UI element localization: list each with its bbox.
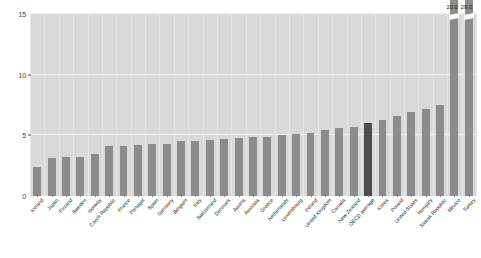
x-axis-tick-mark xyxy=(66,195,67,197)
bar xyxy=(105,146,113,196)
x-axis-tick-mark xyxy=(354,195,355,197)
gridline-vertical xyxy=(476,14,477,196)
x-axis-tick-mark xyxy=(152,195,153,197)
bar xyxy=(263,137,271,196)
x-axis-tick-mark xyxy=(167,195,168,197)
x-axis-category-label: Sweden xyxy=(71,197,88,215)
bar xyxy=(364,123,372,196)
y-axis: 051015 xyxy=(0,14,26,196)
plot-area xyxy=(30,14,476,196)
bar-chart: 051015 IcelandJapanFinlandSwedenNorwayCz… xyxy=(0,0,481,258)
x-axis-tick-mark xyxy=(267,195,268,197)
gridline-vertical xyxy=(217,14,218,196)
x-axis-tick-mark xyxy=(397,195,398,197)
x-axis-tick-mark xyxy=(109,195,110,197)
gridline-vertical xyxy=(59,14,60,196)
gridline-vertical xyxy=(347,14,348,196)
bar xyxy=(191,141,199,196)
y-axis-tick-mark xyxy=(28,135,31,136)
x-axis-tick-mark xyxy=(382,195,383,197)
x-axis-tick-mark xyxy=(138,195,139,197)
bar xyxy=(436,105,444,196)
bar xyxy=(206,140,214,196)
gridline-vertical xyxy=(390,14,391,196)
gridline-vertical xyxy=(246,14,247,196)
gridline-vertical xyxy=(275,14,276,196)
x-axis-category-label: Italy xyxy=(192,197,203,208)
bar xyxy=(163,144,171,196)
x-axis-category-labels: IcelandJapanFinlandSwedenNorwayCzech Rep… xyxy=(30,197,476,258)
x-axis-tick-mark xyxy=(52,195,53,197)
bar-value-label: 20.0 xyxy=(446,4,457,10)
bar xyxy=(350,127,358,196)
bar xyxy=(278,135,286,196)
bar xyxy=(335,128,343,196)
bar xyxy=(307,133,315,196)
x-axis-tick-mark xyxy=(282,195,283,197)
axis-break-mark xyxy=(449,13,459,20)
x-axis-tick-mark xyxy=(124,195,125,197)
gridline-vertical xyxy=(462,14,463,196)
bar xyxy=(48,158,56,196)
bar xyxy=(120,146,128,196)
x-axis-tick-mark xyxy=(210,195,211,197)
bar xyxy=(321,130,329,196)
bar xyxy=(91,154,99,196)
x-axis-category-label: Korea xyxy=(376,197,390,211)
gridline-vertical xyxy=(332,14,333,196)
x-axis-tick-mark xyxy=(95,195,96,197)
bar xyxy=(62,157,70,196)
x-axis-tick-mark xyxy=(469,195,470,197)
gridline-vertical xyxy=(30,14,31,196)
x-axis-category-label: Mexico xyxy=(446,197,461,213)
bar xyxy=(379,120,387,196)
y-axis-tick-label: 10 xyxy=(18,71,26,78)
bar xyxy=(235,138,243,196)
x-axis-tick-mark xyxy=(368,195,369,197)
bar xyxy=(76,157,84,196)
bar xyxy=(450,0,458,196)
x-axis-category-label: Iceland xyxy=(29,197,45,213)
gridline-horizontal xyxy=(30,13,476,14)
y-axis-tick-label: 15 xyxy=(18,11,26,18)
y-axis-tick-label: 0 xyxy=(22,193,26,200)
bar xyxy=(148,144,156,196)
gridline-vertical xyxy=(404,14,405,196)
x-axis-tick-mark xyxy=(80,195,81,197)
y-axis-tick-mark xyxy=(28,74,31,75)
gridline-vertical xyxy=(375,14,376,196)
gridline-vertical xyxy=(145,14,146,196)
gridline-vertical xyxy=(447,14,448,196)
bar xyxy=(249,137,257,196)
bar xyxy=(465,0,473,196)
gridline-vertical xyxy=(289,14,290,196)
bar xyxy=(407,112,415,196)
x-axis-tick-mark xyxy=(239,195,240,197)
bar xyxy=(33,167,41,196)
x-axis-category-label: Turkey xyxy=(461,197,476,213)
x-axis-tick-mark xyxy=(440,195,441,197)
gridline-vertical xyxy=(116,14,117,196)
bar xyxy=(177,141,185,196)
bar xyxy=(393,116,401,196)
bar xyxy=(220,139,228,196)
gridline-vertical xyxy=(44,14,45,196)
gridline-vertical xyxy=(159,14,160,196)
gridline-vertical xyxy=(203,14,204,196)
gridline-vertical xyxy=(88,14,89,196)
gridline-vertical xyxy=(418,14,419,196)
gridline-horizontal xyxy=(30,74,476,75)
x-axis-tick-mark xyxy=(37,195,38,197)
gridline-vertical xyxy=(231,14,232,196)
gridline-vertical xyxy=(131,14,132,196)
gridline-vertical xyxy=(433,14,434,196)
x-axis-tick-mark xyxy=(411,195,412,197)
axis-break-mark xyxy=(464,13,474,20)
bar xyxy=(422,109,430,196)
x-axis-tick-mark xyxy=(253,195,254,197)
gridline-vertical xyxy=(73,14,74,196)
bar xyxy=(292,134,300,196)
bar xyxy=(134,145,142,196)
x-axis-tick-mark xyxy=(426,195,427,197)
gridline-vertical xyxy=(260,14,261,196)
